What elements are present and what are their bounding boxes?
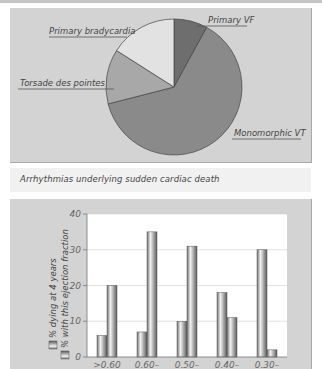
label-primary-bradycardia: Primary bradycardia bbox=[49, 26, 136, 36]
top-divider bbox=[0, 0, 322, 3]
x-tick-label: 0.50– bbox=[175, 360, 200, 369]
legend-swatch-ejection bbox=[61, 351, 69, 359]
y-tick-label: 10 bbox=[70, 316, 82, 326]
y-tick-label: 40 bbox=[70, 209, 82, 219]
legend-2: % with this ejection fraction bbox=[60, 229, 70, 359]
legend: % dying at 4 years bbox=[48, 258, 58, 349]
y-tick-label: 0 bbox=[75, 352, 81, 362]
legend-label-dying: % dying at 4 years bbox=[48, 258, 58, 338]
y-tick-label: 30 bbox=[70, 245, 82, 255]
label-primary-vf: Primary VF bbox=[208, 15, 255, 25]
bar-ejection bbox=[147, 232, 157, 357]
bar-ejection bbox=[227, 318, 237, 357]
label-monomorphic-vt: Monomorphic VT bbox=[234, 128, 306, 138]
bar-chart: 010203040 >0.600.60–0.50–0.40–0.30– % dy… bbox=[10, 199, 311, 369]
bar-dying bbox=[97, 336, 107, 357]
label-torsade: Torsade des pointes bbox=[20, 78, 105, 88]
pie-chart-panel: Primary VF Primary bradycardia Torsade d… bbox=[10, 8, 312, 163]
figure-caption: Arrhythmias underlying sudden cardiac de… bbox=[20, 174, 220, 184]
x-tick-label: >0.60 bbox=[93, 360, 121, 369]
pie-chart: Primary VF Primary bradycardia Torsade d… bbox=[10, 8, 311, 162]
legend-label-ejection: % with this ejection fraction bbox=[60, 229, 70, 348]
x-tick-label: 0.40– bbox=[215, 360, 240, 369]
bar-dying bbox=[137, 332, 147, 357]
bar-chart-panel: 010203040 >0.600.60–0.50–0.40–0.30– % dy… bbox=[10, 199, 312, 369]
caption-box: Arrhythmias underlying sudden cardiac de… bbox=[10, 168, 311, 192]
bar-dying bbox=[257, 250, 267, 357]
legend-swatch-dying bbox=[49, 341, 57, 349]
x-tick-label: 0.60– bbox=[135, 360, 160, 369]
bar-ejection bbox=[187, 246, 197, 357]
bar-dying bbox=[217, 293, 227, 357]
bar-ejection bbox=[107, 286, 117, 358]
bar-ejection bbox=[267, 350, 277, 357]
bar-dying bbox=[177, 321, 187, 357]
x-tick-label: 0.30– bbox=[255, 360, 280, 369]
y-tick-label: 20 bbox=[70, 281, 82, 291]
